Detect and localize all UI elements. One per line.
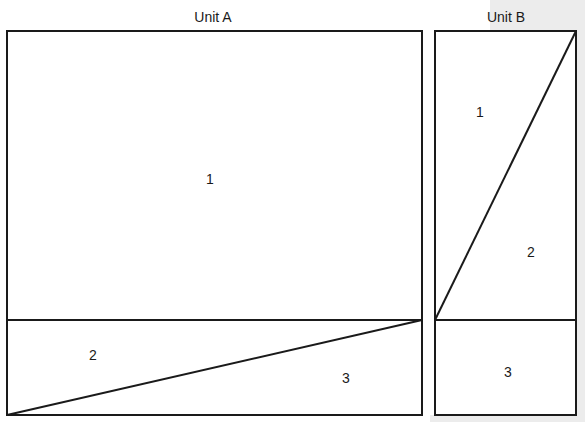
diagram-canvas (0, 0, 585, 422)
unit-a-box (7, 31, 422, 415)
unit-b-box (435, 31, 576, 415)
unit-b-title: Unit B (487, 9, 525, 25)
unit-a-region-2-label: 2 (89, 347, 97, 363)
unit-a-title: Unit A (194, 9, 231, 25)
unit-a-region-3-label: 3 (342, 370, 350, 386)
unit-a-region-1-label: 1 (206, 171, 214, 187)
unit-b-shape (435, 31, 576, 415)
unit-b-region-2-label: 2 (527, 244, 535, 260)
unit-b-region-3-label: 3 (504, 364, 512, 380)
unit-a-shape (7, 31, 422, 415)
unit-b-region-1-label: 1 (476, 104, 484, 120)
